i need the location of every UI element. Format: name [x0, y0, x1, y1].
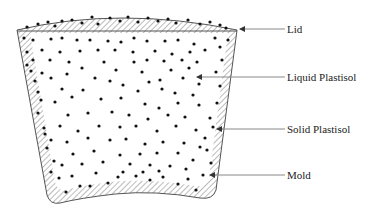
mold-label: Mold [287, 169, 311, 181]
mold-cavity [30, 33, 228, 190]
solid-plastisol-label: Solid Plastisol [287, 123, 350, 135]
liquid-plastisol-label: Liquid Plastisol [287, 71, 356, 83]
slush-molding-diagram: Lid Liquid Plastisol Solid Plastisol Mol… [0, 0, 369, 212]
lid-label: Lid [287, 23, 303, 35]
